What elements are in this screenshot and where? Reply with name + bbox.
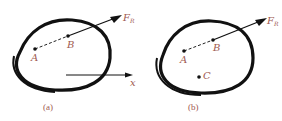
rigid-body-b-drawing [141,0,282,121]
dashed-line-a-b [184,40,213,51]
body-outline [161,21,253,93]
point-a-dot [182,49,186,53]
force-label: FR [123,13,134,24]
point-b-dot [66,34,70,38]
point-b-label: B [213,43,220,53]
point-c-dot [197,75,201,79]
point-a-dot [33,47,37,51]
force-arrowhead [255,18,267,26]
rigid-body-a-drawing [0,0,141,121]
force-arrowhead [110,15,122,23]
dashed-line-a-b [35,36,68,49]
figure-caption: (b) [188,103,199,112]
point-c-label: C [203,71,211,81]
figure-a: A B FR x (a) [0,0,141,121]
x-axis-label: x [130,78,136,88]
force-label: FR [267,16,278,27]
figure-b: A B C FR (b) [141,0,282,121]
point-a-label: A [180,55,187,65]
figure-caption: (a) [43,103,53,112]
point-a-label: A [31,53,38,63]
point-b-label: B [67,40,74,50]
